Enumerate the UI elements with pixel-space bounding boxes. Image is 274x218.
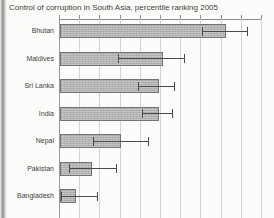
gridline-50 — [160, 19, 161, 218]
error-bar-cap-right — [116, 164, 117, 173]
gridline-60 — [180, 19, 181, 218]
error-bar-cap-right — [97, 192, 98, 201]
axis-tick-20 — [99, 15, 100, 19]
category-label-bhutan: Bhutan — [0, 24, 54, 38]
gridline-70 — [200, 19, 201, 218]
error-bar-cap-right — [184, 54, 185, 63]
gridline-90 — [241, 19, 242, 218]
error-bar-cap-left — [142, 109, 143, 118]
error-bar-cap-right — [174, 82, 175, 91]
error-bar-line — [69, 168, 116, 169]
error-bar-line — [61, 196, 97, 197]
axis-tick-80 — [221, 15, 222, 19]
axis-tick-0 — [59, 15, 60, 19]
gridline-100 — [261, 19, 262, 218]
error-bar-line — [118, 58, 184, 59]
error-bar-cap-right — [247, 27, 248, 36]
plot-area — [59, 19, 262, 218]
error-bar-cap-right — [172, 109, 173, 118]
category-label-bangladesh: Bangladesh — [0, 189, 54, 203]
category-label-india: India — [0, 107, 54, 121]
chart-title: Control of corruption in South Asia, per… — [9, 3, 271, 13]
chart-screenshot: Control of corruption in South Asia, per… — [0, 0, 274, 218]
error-bar-line — [142, 113, 172, 114]
axis-tick-70 — [200, 15, 201, 19]
axis-tick-10 — [79, 15, 80, 19]
error-bar-line — [202, 31, 247, 32]
axis-tick-30 — [120, 15, 121, 19]
axis-tick-60 — [180, 15, 181, 19]
error-bar-cap-right — [148, 137, 149, 146]
error-bar-cap-left — [118, 54, 119, 63]
error-bar-line — [93, 141, 148, 142]
gridline-80 — [221, 19, 222, 218]
error-bar-cap-left — [61, 192, 62, 201]
category-label-nepal: Nepal — [0, 134, 54, 148]
error-bar-line — [138, 86, 174, 87]
axis-tick-40 — [140, 15, 141, 19]
category-label-maldives: Maldives — [0, 52, 54, 66]
error-bar-cap-left — [202, 27, 203, 36]
axis-tick-100 — [261, 15, 262, 19]
axis-tick-90 — [241, 15, 242, 19]
error-bar-cap-left — [93, 137, 94, 146]
category-label-pakistan: Pakistan — [0, 162, 54, 176]
category-label-sri-lanka: Sri Lanka — [0, 79, 54, 93]
error-bar-cap-left — [69, 164, 70, 173]
axis-tick-50 — [160, 15, 161, 19]
error-bar-cap-left — [138, 82, 139, 91]
